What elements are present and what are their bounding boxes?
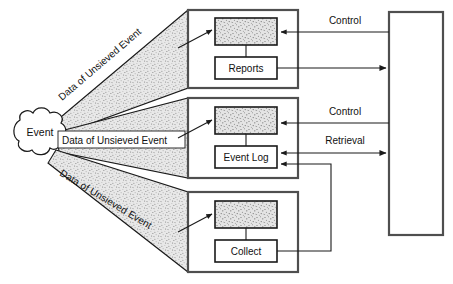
event-source-label: Event xyxy=(27,126,54,138)
process-box-reports[interactable] xyxy=(215,18,277,45)
store-label-event-log: Event Log xyxy=(223,152,268,163)
store-label-reports: Reports xyxy=(228,63,263,74)
process-box-event-log[interactable] xyxy=(215,107,277,134)
flow-label-middle: Data of Unsieved Event xyxy=(58,131,185,148)
connector-label-control-middle: Control xyxy=(329,106,361,117)
connector-label-retrieval: Retrieval xyxy=(325,135,364,146)
panel-reports[interactable]: Reports xyxy=(188,10,298,88)
process-box-collect[interactable] xyxy=(215,201,277,228)
external-entity-border xyxy=(389,12,443,235)
panel-event-log[interactable]: Event Log xyxy=(188,98,298,178)
flow-label-middle-text: Data of Unsieved Event xyxy=(62,135,167,146)
connector-label-control-top: Control xyxy=(329,15,361,26)
panel-collect[interactable]: Collect xyxy=(188,192,298,272)
diagram-svg: Event Data of Unsieved Event Data of Uns… xyxy=(0,0,453,284)
diagram-canvas: Event Data of Unsieved Event Data of Uns… xyxy=(0,0,453,284)
external-entity-block[interactable] xyxy=(389,12,443,235)
store-label-collect: Collect xyxy=(231,246,262,257)
